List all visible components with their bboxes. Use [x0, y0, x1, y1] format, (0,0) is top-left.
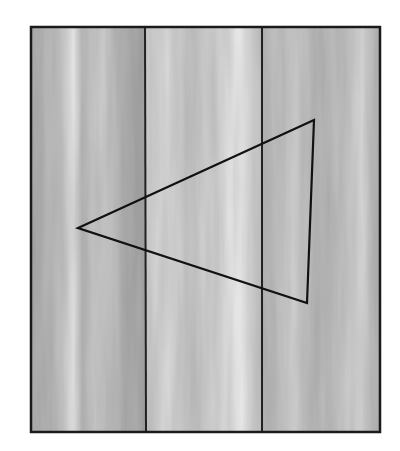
plank-left	[30, 27, 145, 432]
plank-middle	[145, 27, 262, 432]
plank-divider-1	[145, 27, 146, 432]
plank-right	[262, 27, 380, 432]
plank-triangle-figure	[0, 0, 400, 451]
